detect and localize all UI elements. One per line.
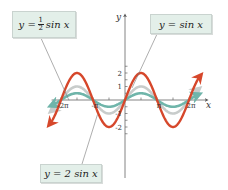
label-half-suffix: sin x bbox=[46, 19, 70, 30]
y-tick-label: -1 bbox=[115, 110, 122, 118]
x-tick-label: -2π bbox=[57, 102, 69, 110]
y-axis-label: y bbox=[115, 12, 122, 22]
x-tick-label: 2π bbox=[186, 102, 195, 110]
leader-half-sin bbox=[40, 36, 69, 100]
x-tick-label: -π bbox=[92, 102, 99, 110]
label-half-sin: y = 1 2 sin x bbox=[12, 11, 76, 38]
leader-sin bbox=[132, 32, 158, 88]
fraction-numerator: 1 bbox=[39, 17, 43, 24]
leader-lines bbox=[40, 32, 158, 164]
y-tick-label: -2 bbox=[115, 124, 122, 132]
x-tick-label: π bbox=[157, 102, 162, 110]
leader-two-sin bbox=[82, 115, 97, 164]
x-axis-label: x bbox=[206, 100, 211, 110]
fraction: 1 2 bbox=[38, 17, 44, 32]
label-two-sin-text: y = 2 sin x bbox=[44, 168, 98, 179]
y-tick-label: 1 bbox=[118, 83, 122, 91]
y-tick-label: 2 bbox=[118, 70, 122, 78]
label-sin-text: y = sin x bbox=[159, 19, 203, 30]
label-two-sin: y = 2 sin x bbox=[40, 164, 102, 183]
fraction-denominator: 2 bbox=[39, 25, 43, 32]
label-half-prefix: y = bbox=[19, 19, 36, 30]
label-sin: y = sin x bbox=[150, 14, 212, 34]
